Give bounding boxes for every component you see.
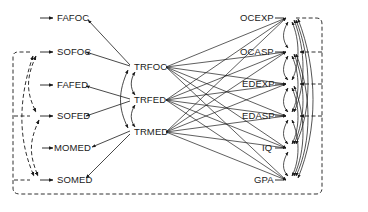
node-fafed: FAFED [57,80,88,90]
node-trfed: TRFED [134,95,166,105]
true-to-reported-arrows [86,20,130,178]
node-somed: SOMED [57,175,92,185]
node-ocexp: OCEXP [240,13,274,23]
node-trmed: TRMED [134,127,168,137]
node-ocasp: OCASP [240,47,274,57]
node-iq: IQ [262,143,272,153]
outcome-correlation-arcs [284,19,314,178]
path-diagram [0,0,368,212]
node-sofoc: SOFOC [57,47,91,57]
node-momed: MOMED [54,143,91,153]
node-trfoc: TRFOC [134,62,167,72]
error-term-arrows-right [275,18,284,180]
node-sofed: SOFED [57,111,90,121]
left-dashed-correlations [13,18,322,194]
true-to-outcome-arrows [166,18,286,180]
node-edexp: EDEXP [242,79,275,89]
error-term-arrows-left [40,18,53,180]
node-edasp: EDASP [242,111,275,121]
node-fafoc: FAFOC [57,13,89,23]
node-gpa: GPA [254,175,274,185]
intermediate-correlations [121,70,136,128]
